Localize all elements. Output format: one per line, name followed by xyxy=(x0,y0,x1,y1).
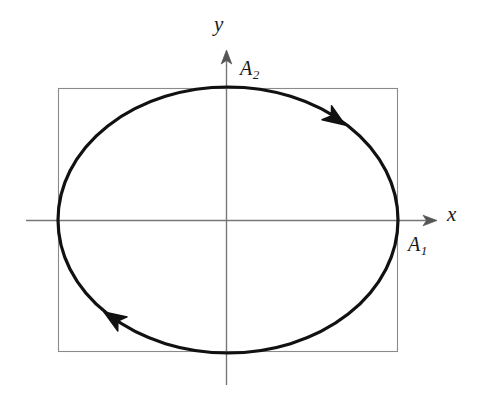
point-label-a2: A2 xyxy=(240,58,259,81)
y-axis-label: y xyxy=(214,14,223,35)
point-label-a1: A1 xyxy=(408,234,427,257)
point-label-a2-base: A xyxy=(240,57,252,79)
point-label-a1-base: A xyxy=(408,233,420,255)
figure-canvas: y x A2 A1 xyxy=(0,0,482,400)
point-label-a1-subscript: 1 xyxy=(421,243,428,258)
x-axis-label: x xyxy=(447,204,456,225)
point-label-a2-subscript: 2 xyxy=(253,67,260,82)
